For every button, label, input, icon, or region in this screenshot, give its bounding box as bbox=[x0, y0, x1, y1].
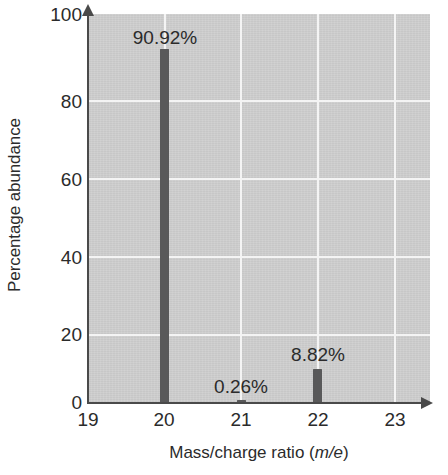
y-axis-line bbox=[87, 14, 89, 403]
gridline-vertical bbox=[240, 14, 242, 403]
y-axis-arrow-icon bbox=[82, 4, 94, 16]
plot-area: 90.92% 0.26% 8.82% bbox=[88, 14, 430, 403]
bar-label-neon-20: 90.92% bbox=[133, 28, 197, 47]
mass-spectrum-chart: Percentage abundance 100 80 60 40 20 0 9… bbox=[0, 0, 448, 475]
y-tick-label: 100 bbox=[40, 5, 82, 24]
x-tick-label: 23 bbox=[384, 410, 405, 429]
gridline-horizontal bbox=[88, 178, 430, 180]
x-axis-line bbox=[87, 402, 424, 404]
bar-label-neon-22: 8.82% bbox=[291, 345, 345, 364]
bar-label-neon-21: 0.26% bbox=[214, 377, 268, 396]
y-tick-label: 40 bbox=[40, 248, 82, 267]
y-tick-label: 0 bbox=[40, 393, 82, 412]
bar-neon-20 bbox=[160, 49, 169, 403]
x-axis-title-tail: ) bbox=[343, 443, 349, 462]
plot-background-texture bbox=[88, 14, 430, 403]
bar-neon-22 bbox=[313, 369, 322, 403]
y-tick-label: 20 bbox=[40, 325, 82, 344]
x-axis-title-italic: m/e bbox=[315, 443, 343, 462]
x-axis-arrow-icon bbox=[421, 397, 433, 409]
x-tick-label: 19 bbox=[77, 410, 98, 429]
gridline-horizontal bbox=[88, 334, 430, 336]
x-axis-title-plain: Mass/charge ratio ( bbox=[169, 443, 315, 462]
y-axis-title-text: Percentage abundance bbox=[5, 118, 25, 292]
x-tick-label: 20 bbox=[153, 410, 174, 429]
y-axis-title: Percentage abundance bbox=[0, 0, 30, 410]
gridline-vertical bbox=[394, 14, 396, 403]
x-tick-label: 21 bbox=[230, 410, 251, 429]
x-axis-title: Mass/charge ratio (m/e) bbox=[88, 443, 430, 463]
y-axis-tick-labels: 100 80 60 40 20 0 bbox=[34, 0, 82, 475]
gridline-horizontal bbox=[88, 100, 430, 102]
y-tick-label: 80 bbox=[40, 92, 82, 111]
gridline-horizontal bbox=[88, 256, 430, 258]
y-tick-label: 60 bbox=[40, 170, 82, 189]
x-tick-label: 22 bbox=[307, 410, 328, 429]
